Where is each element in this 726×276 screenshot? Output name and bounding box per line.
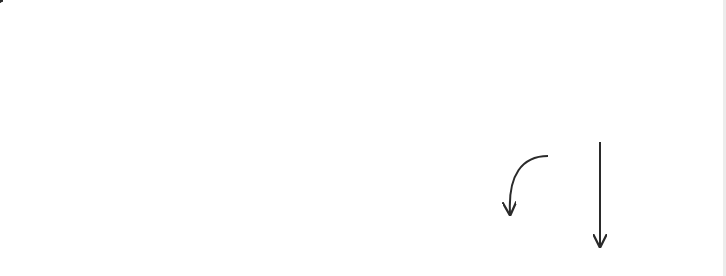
tracing-worksheet xyxy=(0,0,726,276)
letter-a-stroke-arrows xyxy=(510,142,600,245)
curved-stroke-1-arrow-icon xyxy=(510,156,548,213)
